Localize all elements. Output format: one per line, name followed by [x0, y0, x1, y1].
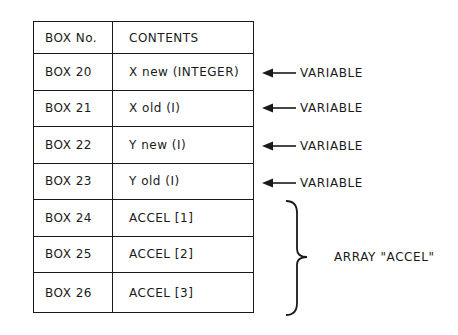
variable-annotation: VARIABLE: [262, 138, 363, 154]
box-number: BOX 26: [34, 273, 113, 312]
right-curly-brace-icon: [283, 199, 311, 317]
box-contents: ACCEL [3]: [113, 273, 253, 312]
box-contents: X new (INTEGER): [113, 54, 253, 90]
header-box-no: BOX No.: [34, 22, 113, 53]
variable-label: VARIABLE: [300, 66, 363, 80]
box-number: BOX 23: [34, 164, 113, 200]
table-row: BOX 22 Y new (I): [34, 127, 253, 164]
table-row: BOX 20 X new (INTEGER): [34, 54, 253, 91]
box-contents: ACCEL [1]: [113, 200, 253, 236]
table-row: BOX 23 Y old (I): [34, 164, 253, 201]
variable-label: VARIABLE: [300, 101, 363, 115]
box-number: BOX 22: [34, 127, 113, 163]
left-arrow-icon: [262, 68, 296, 78]
box-number: BOX 24: [34, 200, 113, 236]
box-number: BOX 21: [34, 91, 113, 127]
variable-label: VARIABLE: [300, 176, 363, 190]
left-arrow-icon: [262, 103, 296, 113]
header-contents: CONTENTS: [113, 22, 253, 53]
table-row: BOX 25 ACCEL [2]: [34, 237, 253, 274]
table-row: BOX 24 ACCEL [1]: [34, 200, 253, 237]
box-contents: X old (I): [113, 91, 253, 127]
left-arrow-icon: [262, 178, 296, 188]
memory-boxes-table: BOX No. CONTENTS BOX 20 X new (INTEGER) …: [33, 21, 254, 313]
box-contents: Y new (I): [113, 127, 253, 163]
table-row: BOX 26 ACCEL [3]: [34, 273, 253, 312]
box-contents: ACCEL [2]: [113, 237, 253, 273]
variable-annotation: VARIABLE: [262, 175, 363, 191]
table-row: BOX 21 X old (I): [34, 91, 253, 128]
array-label: ARRAY "ACCEL": [334, 250, 435, 264]
variable-annotation: VARIABLE: [262, 65, 363, 81]
box-contents: Y old (I): [113, 164, 253, 200]
table-header-row: BOX No. CONTENTS: [34, 22, 253, 54]
box-number: BOX 25: [34, 237, 113, 273]
box-number: BOX 20: [34, 54, 113, 90]
variable-label: VARIABLE: [300, 139, 363, 153]
variable-annotation: VARIABLE: [262, 100, 363, 116]
left-arrow-icon: [262, 141, 296, 151]
